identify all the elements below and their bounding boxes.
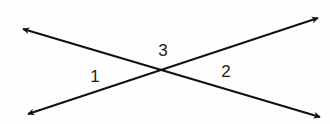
angle-label-3: 3 xyxy=(158,41,167,60)
angle-label-1: 1 xyxy=(90,67,99,86)
diagram-canvas: 1 2 3 xyxy=(0,0,330,124)
line-b xyxy=(28,18,318,114)
intersecting-lines-figure: 1 2 3 xyxy=(0,0,330,124)
line-a xyxy=(23,29,320,117)
angle-label-2: 2 xyxy=(221,62,230,81)
